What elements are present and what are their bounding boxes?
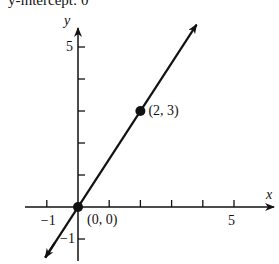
line-series bbox=[45, 25, 196, 258]
x-axis-label: x bbox=[266, 188, 272, 202]
axes bbox=[25, 28, 274, 261]
data-point bbox=[73, 202, 83, 212]
point-label: (0, 0) bbox=[87, 213, 117, 227]
x-tick-label: −1 bbox=[41, 214, 56, 228]
x-tick-label: 5 bbox=[228, 214, 235, 228]
plotted-line bbox=[45, 25, 196, 258]
line-arrow-start bbox=[45, 243, 54, 257]
data-point bbox=[135, 106, 145, 116]
point-label: (2, 3) bbox=[148, 104, 178, 118]
y-tick-label: −1 bbox=[60, 232, 75, 246]
y-tick-label: 5 bbox=[66, 40, 73, 54]
y-axis-label: y bbox=[64, 14, 70, 28]
